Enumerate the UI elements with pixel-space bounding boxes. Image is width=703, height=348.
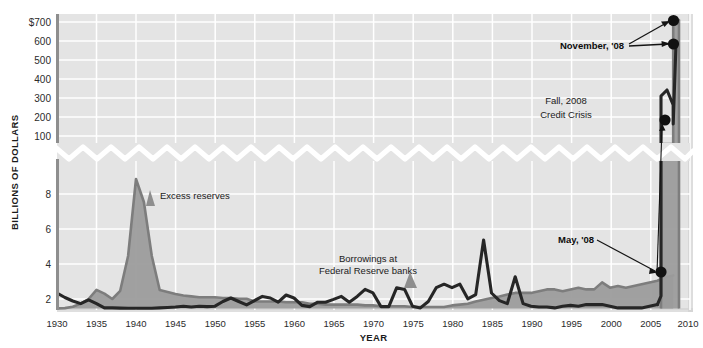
annotation-november-08: November, '08 (560, 40, 624, 51)
chart-svg: $700 600 500 400 300 200 100 8 6 4 2 BIL… (0, 0, 703, 348)
y-tick-8: 8 (45, 189, 51, 200)
x-tick-1975: 1975 (403, 318, 424, 329)
x-axis-title: YEAR (360, 332, 388, 343)
x-tick-1965: 1965 (323, 318, 344, 329)
x-tick-1995: 1995 (561, 318, 582, 329)
annotation-fall-2008-line1: Fall, 2008 (545, 95, 587, 106)
marker-credit-crisis (659, 114, 670, 125)
x-tick-1990: 1990 (521, 318, 542, 329)
x-tick-1935: 1935 (86, 318, 107, 329)
axis-break-zigzag (55, 143, 693, 161)
y-axis-title: BILLIONS OF DOLLARS (9, 115, 20, 230)
y-tick-300: 300 (34, 93, 51, 104)
x-tick-2010: 2010 (677, 318, 698, 329)
chart-container: $700 600 500 400 300 200 100 8 6 4 2 BIL… (0, 0, 703, 348)
x-tick-1940: 1940 (125, 318, 146, 329)
y-tick-600: 600 (34, 36, 51, 47)
annotation-fall-2008-line2: Credit Crisis (540, 109, 592, 120)
marker-november-bottom (668, 38, 679, 49)
y-tick-200: 200 (34, 112, 51, 123)
annotation-borrowings-line2: Federal Reserve banks (319, 265, 417, 276)
x-tick-1930: 1930 (46, 318, 67, 329)
y-tick-500: 500 (34, 55, 51, 66)
x-tick-1985: 1985 (482, 318, 503, 329)
x-tick-1970: 1970 (363, 318, 384, 329)
marker-may-08 (655, 266, 666, 277)
x-tick-1980: 1980 (442, 318, 463, 329)
x-tick-1960: 1960 (284, 318, 305, 329)
x-tick-2005: 2005 (640, 318, 661, 329)
x-tick-2000: 2000 (601, 318, 622, 329)
y-tick-100: 100 (34, 131, 51, 142)
x-ticklabels: 1930 1935 1940 1945 1950 1955 1960 1965 … (46, 318, 698, 329)
annotation-may-08: May, '08 (558, 234, 594, 245)
y-tick-400: 400 (34, 74, 51, 85)
x-tick-1950: 1950 (205, 318, 226, 329)
y-tick-6: 6 (45, 224, 51, 235)
y-tick-4: 4 (45, 259, 51, 270)
annotation-excess-reserves: Excess reserves (160, 190, 230, 201)
x-tick-1955: 1955 (244, 318, 265, 329)
x-tick-1945: 1945 (165, 318, 186, 329)
annotation-borrowings-line1: Borrowings at (339, 253, 397, 264)
y-tick-700: $700 (29, 17, 52, 28)
y-tick-2: 2 (45, 294, 51, 305)
marker-november-top (668, 15, 679, 26)
